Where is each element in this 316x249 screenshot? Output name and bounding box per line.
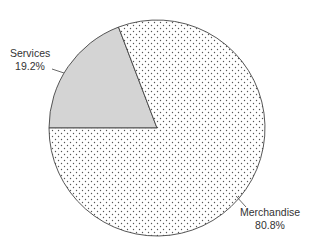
services-label: Services 19.2% <box>10 47 50 73</box>
merchandise-name: Merchandise <box>236 206 304 219</box>
merchandise-percent: 80.8% <box>236 219 304 232</box>
pie-slices <box>49 20 265 236</box>
services-percent: 19.2% <box>10 60 50 73</box>
merchandise-label: Merchandise 80.8% <box>236 206 304 232</box>
services-leader-line <box>52 69 64 73</box>
services-name: Services <box>10 47 50 60</box>
